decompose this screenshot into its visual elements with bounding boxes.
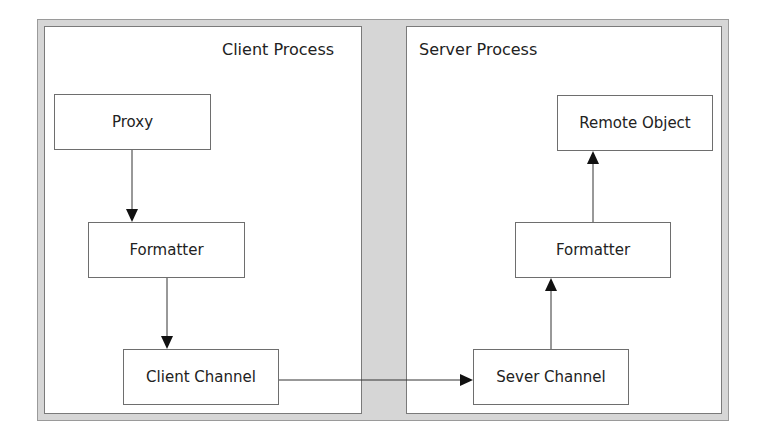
server-process-title: Server Process: [419, 40, 537, 59]
server-formatter-node: Formatter: [515, 222, 671, 278]
remote-object-node: Remote Object: [557, 95, 713, 151]
server-channel-node: Sever Channel: [473, 349, 629, 405]
client-channel-node: Client Channel: [123, 349, 279, 405]
client-process-title: Client Process: [222, 40, 334, 59]
client-formatter-node: Formatter: [88, 222, 245, 278]
proxy-node: Proxy: [54, 94, 211, 150]
